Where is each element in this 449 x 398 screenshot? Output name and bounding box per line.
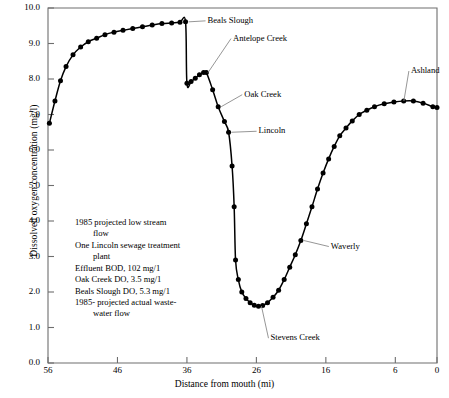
callout-label: Oak Creek: [244, 89, 281, 99]
callout-label: Ashland: [411, 65, 440, 75]
data-point-marker: [304, 221, 309, 226]
data-point-marker: [183, 19, 188, 24]
data-point-marker: [64, 64, 69, 69]
data-point-marker: [222, 119, 227, 124]
data-point-marker: [94, 36, 99, 41]
data-point-marker: [293, 252, 298, 257]
data-point-marker: [226, 130, 231, 135]
data-point-marker: [58, 78, 63, 83]
callout-leader-line: [221, 95, 242, 107]
callout-leader-line: [208, 39, 231, 73]
callout-label: Waverly: [331, 241, 360, 251]
callout-label: Antelope Creek: [233, 33, 287, 43]
data-point-marker: [344, 125, 349, 130]
data-point-marker: [236, 277, 241, 282]
data-point-marker: [282, 277, 287, 282]
data-point-marker: [271, 295, 276, 300]
data-point-marker: [382, 101, 387, 106]
data-point-marker: [189, 79, 194, 84]
note-line: 1985 projected low stream: [75, 217, 180, 228]
callout-leader-line: [404, 71, 409, 101]
data-point-marker: [435, 105, 440, 110]
data-point-marker: [210, 87, 215, 92]
data-point-marker: [350, 118, 355, 123]
callout-label: Beals Slough: [208, 15, 254, 25]
data-point-marker: [256, 304, 261, 309]
x-axis-tick-label: 56: [33, 365, 63, 376]
data-point-marker: [326, 156, 331, 161]
data-point-marker: [193, 76, 198, 81]
callout-leader-line: [261, 306, 268, 338]
callout-leader-line: [304, 241, 329, 247]
data-point-marker: [315, 187, 320, 192]
data-point-marker: [121, 28, 126, 33]
data-point-marker: [111, 30, 116, 35]
y-axis-tick-label: 4.0: [8, 215, 40, 226]
data-point-marker: [401, 99, 406, 104]
note-line: flow: [75, 228, 180, 239]
data-point-marker: [260, 303, 265, 308]
x-axis-tick-label: 6: [380, 365, 410, 376]
data-point-marker: [430, 104, 435, 109]
data-point-marker: [252, 303, 257, 308]
x-axis-tick-label: 26: [241, 365, 271, 376]
data-point-marker: [230, 163, 235, 168]
data-point-marker: [298, 238, 303, 243]
data-point-marker: [265, 300, 270, 305]
callout-label: Stevens Creek: [270, 332, 319, 342]
data-point-marker: [248, 300, 253, 305]
x-axis-tick-label: 46: [102, 365, 132, 376]
data-point-marker: [321, 171, 326, 176]
data-point-marker: [159, 21, 164, 26]
chart-figure: Dissolved oxygen concentration (mg/l) Di…: [0, 0, 449, 398]
x-axis-tick-label: 0: [422, 365, 449, 376]
y-axis-tick-label: 3.0: [8, 251, 40, 262]
y-axis-tick-label: 6.0: [8, 144, 40, 155]
data-point-marker: [364, 108, 369, 113]
y-axis-tick-label: 2.0: [8, 286, 40, 297]
data-point-marker: [391, 100, 396, 105]
data-point-marker: [239, 290, 244, 295]
data-point-marker: [287, 265, 292, 270]
y-axis-tick-label: 8.0: [8, 73, 40, 84]
data-point-marker: [232, 204, 237, 209]
data-point-marker: [78, 45, 83, 50]
data-point-marker: [71, 52, 76, 57]
y-axis-tick-label: 1.0: [8, 322, 40, 333]
data-point-marker: [372, 104, 377, 109]
notes-block: 1985 projected low streamflowOne Lincoln…: [75, 217, 180, 320]
x-axis-tick-label: 36: [172, 365, 202, 376]
note-line: Oak Creek DO, 3.5 mg/1: [75, 274, 180, 285]
callout-label: Lincoln: [259, 125, 286, 135]
data-point-marker: [140, 24, 145, 29]
data-point-marker: [411, 99, 416, 104]
data-point-marker: [86, 39, 91, 44]
chart-canvas: [0, 0, 449, 398]
y-axis-tick-label: 7.0: [8, 109, 40, 120]
callout-leader-line: [189, 21, 206, 22]
x-axis-tick-label: 16: [311, 365, 341, 376]
data-point-marker: [276, 288, 281, 293]
data-point-marker: [169, 20, 174, 25]
y-axis-tick-label: 5.0: [8, 180, 40, 191]
note-line: 1985- projected actual waste-: [75, 297, 180, 308]
y-axis-tick-label: 10.0: [8, 2, 40, 13]
note-line: Effluent BOD, 102 mg/1: [75, 263, 180, 274]
note-line: Beals Slough DO, 5.3 mg/1: [75, 286, 180, 297]
note-line: plant: [75, 251, 180, 262]
x-axis-title: Distance from mouth (mi): [0, 379, 449, 390]
data-point-marker: [150, 23, 155, 28]
data-point-marker: [233, 258, 238, 263]
data-point-marker: [177, 20, 182, 25]
data-point-marker: [357, 112, 362, 117]
data-point-marker: [332, 144, 337, 149]
data-point-marker: [337, 133, 342, 138]
data-point-marker: [243, 296, 248, 301]
y-axis-tick-label: 9.0: [8, 38, 40, 49]
data-point-marker: [216, 104, 221, 109]
data-point-marker: [52, 99, 57, 104]
note-line: water flow: [75, 308, 180, 319]
data-point-marker: [421, 101, 426, 106]
callout-leader-line: [232, 131, 257, 132]
note-line: One Lincoln sewage treatment: [75, 240, 180, 251]
